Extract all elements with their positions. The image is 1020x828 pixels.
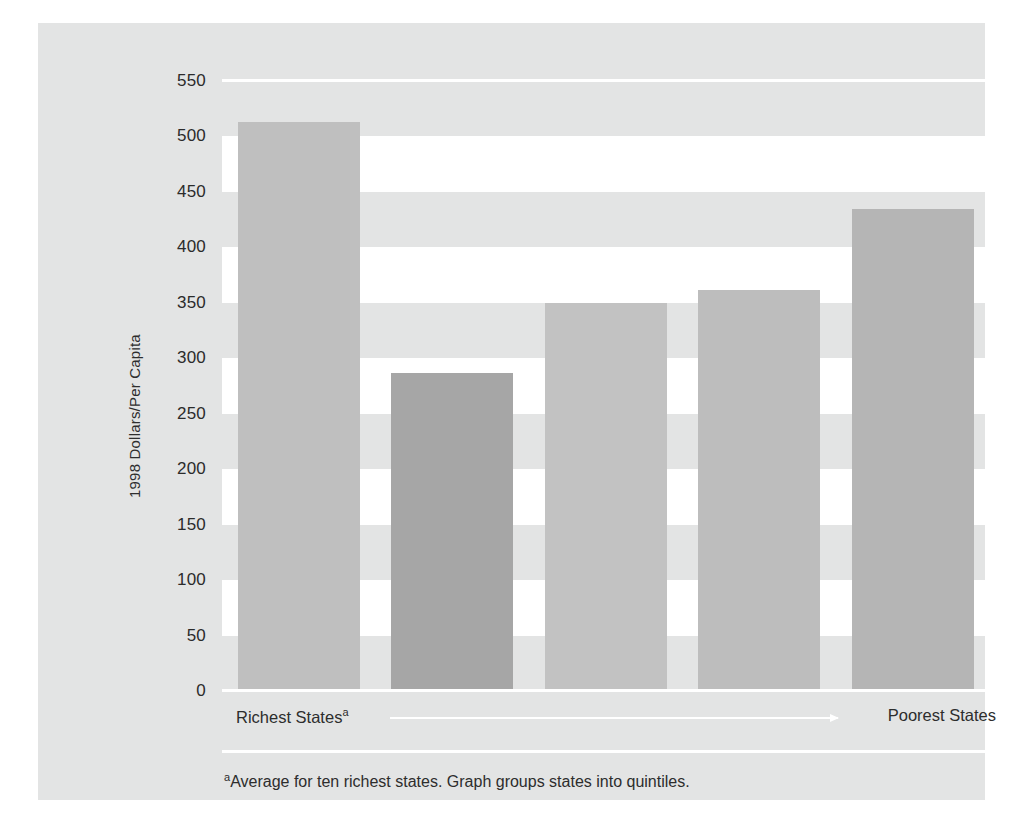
footnote: aAverage for ten richest states. Graph g… <box>224 771 690 791</box>
footnote-text: Average for ten richest states. Graph gr… <box>230 773 690 790</box>
y-tick-label: 550 <box>146 71 206 91</box>
axis-label-richest: Richest Statesa <box>236 706 349 727</box>
y-tick-label: 100 <box>146 570 206 590</box>
axis-baseline <box>222 689 1004 692</box>
y-tick-label: 150 <box>146 515 206 535</box>
y-tick-label: 200 <box>146 459 206 479</box>
axis-label-poorest: Poorest States <box>888 706 996 725</box>
bar-3 <box>545 303 667 691</box>
y-axis-title: 1998 Dollars/Per Capita <box>126 334 143 498</box>
axis-label-richest-text: Richest States <box>236 708 342 726</box>
x-axis-labels: Richest Statesa Poorest States <box>222 706 1012 732</box>
y-tick-label: 450 <box>146 182 206 202</box>
y-tick-label: 500 <box>146 126 206 146</box>
bar-4 <box>698 290 820 691</box>
y-tick-label: 250 <box>146 404 206 424</box>
plot-area <box>222 81 1004 691</box>
y-axis-tick-labels: 050100150200250300350400450500550 <box>146 81 206 691</box>
y-tick-label: 50 <box>146 626 206 646</box>
bar-2 <box>391 373 513 691</box>
bar-5 <box>852 209 974 691</box>
bar-1 <box>238 122 360 691</box>
y-tick-label: 400 <box>146 237 206 257</box>
y-tick-label: 300 <box>146 348 206 368</box>
y-tick-label: 350 <box>146 293 206 313</box>
footnote-separator <box>222 750 1012 753</box>
axis-label-richest-marker: a <box>342 706 348 718</box>
y-tick-label: 0 <box>146 681 206 701</box>
figure-panel: 1998 Dollars/Per Capita 0501001502002503… <box>38 23 985 800</box>
axis-top-rule <box>222 79 1004 82</box>
right-arrow-icon <box>390 717 838 719</box>
